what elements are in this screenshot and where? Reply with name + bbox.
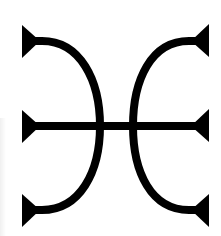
barb-middle-right-icon	[191, 109, 209, 142]
double-arc-symbol-icon	[0, 0, 221, 236]
barb-top-left-icon	[22, 25, 40, 58]
barb-middle-left-icon	[22, 110, 40, 143]
barb-top-right-icon	[191, 24, 209, 57]
barb-bottom-right-icon	[191, 194, 209, 227]
symbol-canvas: double-arc symbol with barbed terminals	[0, 0, 221, 236]
barb-bottom-left-icon	[22, 194, 40, 227]
